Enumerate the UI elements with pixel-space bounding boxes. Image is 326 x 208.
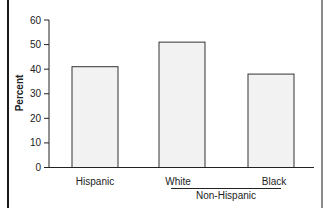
bars bbox=[72, 42, 294, 167]
y-tick-label: 40 bbox=[30, 64, 42, 75]
y-tick-label: 50 bbox=[30, 39, 42, 50]
y-tick-label: 60 bbox=[30, 15, 42, 26]
y-tick-label: 10 bbox=[30, 137, 42, 148]
y-axis: 0102030405060 bbox=[30, 15, 49, 174]
y-tick-label: 30 bbox=[30, 88, 42, 99]
group-label-non-hispanic: Non-Hispanic bbox=[196, 190, 256, 201]
x-tick-label-hispanic: Hispanic bbox=[76, 176, 114, 187]
y-tick-label: 20 bbox=[30, 113, 42, 124]
y-axis-label: Percent bbox=[14, 74, 25, 111]
bar-hispanic bbox=[72, 67, 118, 168]
y-tick-label: 0 bbox=[35, 162, 41, 173]
x-tick-label-black: Black bbox=[262, 176, 287, 187]
x-axis: HispanicWhiteBlack bbox=[44, 168, 314, 188]
bar-black bbox=[248, 74, 294, 167]
x-tick-label-white: White bbox=[165, 176, 191, 187]
bar-chart: 0102030405060 HispanicWhiteBlack Percent… bbox=[0, 0, 326, 208]
bar-white bbox=[159, 42, 205, 167]
